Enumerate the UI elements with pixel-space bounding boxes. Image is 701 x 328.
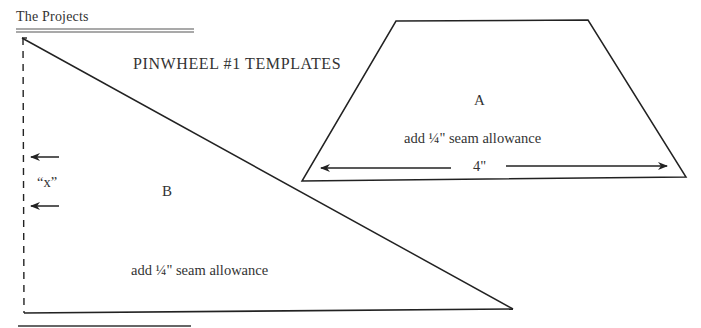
template-a-dimension-label: 4" — [473, 158, 486, 175]
template-b-label: B — [162, 183, 172, 200]
template-a-label: A — [474, 92, 485, 109]
template-a-seam-note: add ¼" seam allowance — [404, 130, 541, 147]
template-b-seam-note: add ¼" seam allowance — [131, 262, 268, 279]
template-b-dashed-edge — [23, 38, 24, 313]
template-b-x-marker: “x” — [37, 174, 57, 191]
template-a-trapezoid — [302, 20, 686, 181]
header-double-rule — [16, 29, 194, 32]
template-a-dimension-arrows — [321, 166, 667, 168]
template-drawing — [0, 0, 701, 328]
page-title: PINWHEEL #1 TEMPLATES — [133, 55, 341, 73]
